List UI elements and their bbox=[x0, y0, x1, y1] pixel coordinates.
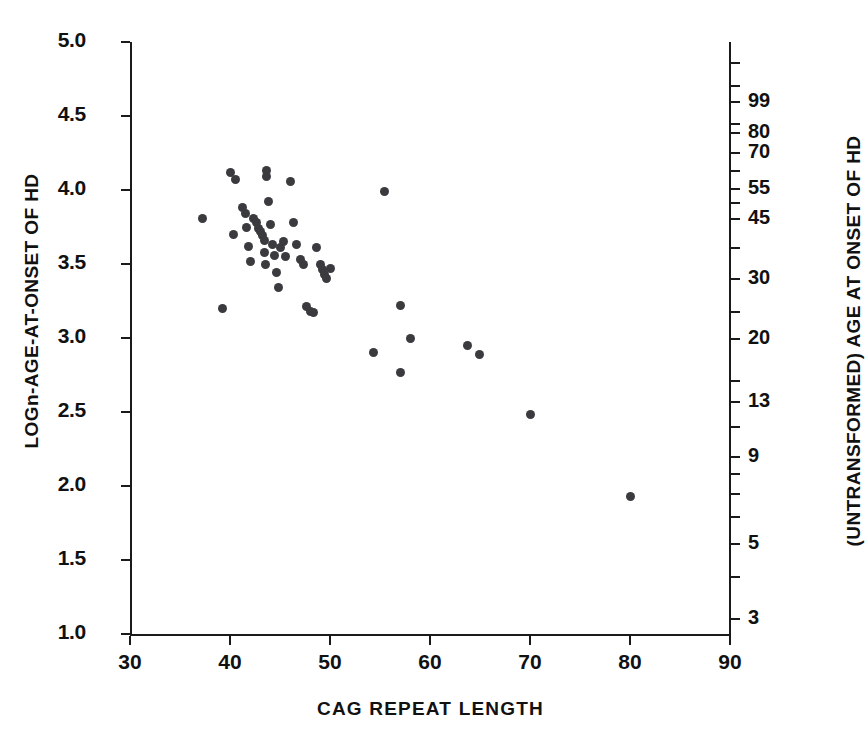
data-point bbox=[475, 350, 484, 359]
y-axis-right-tick bbox=[731, 188, 740, 190]
y-axis-right-tick-label: 5 bbox=[748, 531, 759, 554]
x-axis-tick-label: 80 bbox=[600, 650, 660, 674]
data-point bbox=[270, 251, 279, 260]
data-point bbox=[299, 260, 308, 269]
y-axis-right-tick bbox=[731, 152, 740, 154]
data-point bbox=[260, 248, 269, 257]
x-axis-tick bbox=[529, 636, 531, 645]
x-axis-tick bbox=[729, 636, 731, 645]
y-axis-right-minor-tick bbox=[731, 493, 740, 495]
data-point bbox=[286, 177, 295, 186]
x-axis-tick bbox=[229, 636, 231, 645]
data-point bbox=[292, 240, 301, 249]
y-axis-right-minor-tick bbox=[731, 473, 740, 475]
y-axis-left-tick bbox=[121, 115, 130, 117]
x-axis-tick-label: 70 bbox=[500, 650, 560, 674]
x-axis-tick-label: 90 bbox=[700, 650, 760, 674]
y-axis-left-tick-label: 1.5 bbox=[58, 546, 86, 570]
y-axis-right-tick bbox=[731, 543, 740, 545]
x-axis-tick bbox=[329, 636, 331, 645]
x-axis-tick-label: 40 bbox=[200, 650, 260, 674]
data-point bbox=[380, 187, 389, 196]
y-axis-left-tick-label: 3.5 bbox=[58, 250, 86, 274]
y-axis-right-minor-tick bbox=[731, 62, 740, 64]
y-axis-left-tick-label: 5.0 bbox=[58, 28, 86, 52]
data-point bbox=[229, 230, 238, 239]
y-axis-right-minor-tick bbox=[731, 426, 740, 428]
x-axis-tick-label: 50 bbox=[300, 650, 360, 674]
y-axis-left-tick-label: 2.5 bbox=[58, 398, 86, 422]
y-axis-right-minor-tick bbox=[731, 170, 740, 172]
y-axis-left-tick-label: 2.0 bbox=[58, 472, 86, 496]
data-point bbox=[244, 242, 253, 251]
y-axis-right-minor-tick bbox=[731, 380, 740, 382]
data-point bbox=[281, 252, 290, 261]
y-axis-right-tick bbox=[731, 218, 740, 220]
y-axis-right-tick-label: 55 bbox=[748, 176, 770, 199]
data-point bbox=[289, 218, 298, 227]
y-axis-right-tick bbox=[731, 401, 740, 403]
y-axis-right-tick-label: 70 bbox=[748, 140, 770, 163]
y-axis-left-tick bbox=[121, 189, 130, 191]
data-point bbox=[626, 492, 635, 501]
data-point bbox=[272, 268, 281, 277]
y-axis-right-minor-tick bbox=[731, 123, 740, 125]
data-point bbox=[264, 197, 273, 206]
y-axis-left-title: LOGn-AGE-AT-ONSET OF HD bbox=[21, 101, 43, 521]
data-point bbox=[266, 220, 275, 229]
y-axis-right-tick bbox=[731, 101, 740, 103]
data-point bbox=[218, 304, 227, 313]
data-points-layer bbox=[130, 42, 730, 634]
y-axis-right-minor-tick bbox=[731, 516, 740, 518]
data-point bbox=[326, 264, 335, 273]
data-point bbox=[242, 223, 251, 232]
data-point bbox=[279, 237, 288, 246]
x-axis-title: CAG REPEAT LENGTH bbox=[130, 698, 731, 720]
y-axis-right-minor-tick bbox=[731, 85, 740, 87]
data-point bbox=[406, 334, 415, 343]
y-axis-left-tick bbox=[121, 559, 130, 561]
data-point bbox=[261, 260, 270, 269]
y-axis-right-minor-tick bbox=[731, 202, 740, 204]
data-point bbox=[322, 274, 331, 283]
y-axis-right-tick-label: 99 bbox=[748, 89, 770, 112]
data-point bbox=[463, 341, 472, 350]
data-point bbox=[309, 308, 318, 317]
y-axis-right-title: (UNTRANSFORMED) AGE AT ONSET OF HD bbox=[843, 91, 865, 591]
y-axis-right-minor-tick bbox=[731, 247, 740, 249]
x-axis-tick-label: 30 bbox=[100, 650, 160, 674]
y-axis-right-tick-label: 80 bbox=[748, 120, 770, 143]
y-axis-right-minor-tick bbox=[731, 576, 740, 578]
y-axis-left-tick-label: 1.0 bbox=[58, 620, 86, 644]
y-axis-right-tick bbox=[731, 618, 740, 620]
y-axis-right-tick-label: 20 bbox=[748, 326, 770, 349]
y-axis-right-tick-label: 3 bbox=[748, 606, 759, 629]
data-point bbox=[231, 175, 240, 184]
data-point bbox=[262, 172, 271, 181]
y-axis-left-tick bbox=[121, 263, 130, 265]
y-axis-right-tick-label: 9 bbox=[748, 444, 759, 467]
y-axis-left-tick bbox=[121, 633, 130, 635]
y-axis-right-minor-tick bbox=[731, 311, 740, 313]
y-axis-left-tick-label: 3.0 bbox=[58, 324, 86, 348]
y-axis-right-tick-label: 45 bbox=[748, 206, 770, 229]
y-axis-left-tick bbox=[121, 411, 130, 413]
x-axis-tick bbox=[429, 636, 431, 645]
y-axis-left-tick bbox=[121, 337, 130, 339]
y-axis-left-tick-label: 4.0 bbox=[58, 176, 86, 200]
data-point bbox=[198, 214, 207, 223]
data-point bbox=[396, 368, 405, 377]
data-point bbox=[246, 257, 255, 266]
y-axis-left-tick bbox=[121, 485, 130, 487]
y-axis-right-tick-label: 30 bbox=[748, 266, 770, 289]
x-axis-tick bbox=[129, 636, 131, 645]
y-axis-right-tick-label: 13 bbox=[748, 389, 770, 412]
data-point bbox=[396, 301, 405, 310]
y-axis-left-tick-label: 4.5 bbox=[58, 102, 86, 126]
data-point bbox=[526, 410, 535, 419]
data-point bbox=[312, 243, 321, 252]
x-axis-tick bbox=[629, 636, 631, 645]
y-axis-right-tick bbox=[731, 132, 740, 134]
x-axis-tick-label: 60 bbox=[400, 650, 460, 674]
